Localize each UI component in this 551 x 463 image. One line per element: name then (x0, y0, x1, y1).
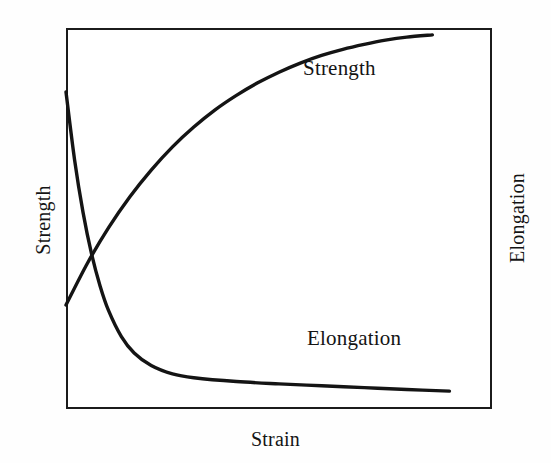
series-label-strength: Strength (303, 56, 376, 81)
chart-figure: Strength Elongation Strain Strength Elon… (0, 0, 551, 463)
y-axis-label-left: Strength (32, 185, 55, 254)
y-axis-label-right: Elongation (506, 173, 529, 263)
x-axis-label: Strain (251, 428, 300, 451)
series-label-elongation: Elongation (307, 326, 401, 351)
plot-area-frame (66, 28, 492, 409)
